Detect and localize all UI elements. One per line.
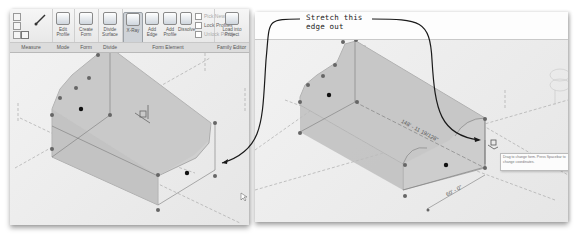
edit-profile-icon — [56, 12, 70, 25]
ribbon-group-divide: Divide Surface Divide — [98, 9, 123, 52]
group-label-form: Form — [74, 42, 98, 52]
measure-icon — [34, 12, 46, 26]
add-profile-icon — [163, 12, 177, 25]
group-label-family-editor: Family Editor — [214, 42, 249, 52]
load-into-project-button[interactable]: Load into Project — [220, 12, 244, 42]
add-edge-label: Add Edge — [147, 27, 158, 37]
modify-icon[interactable] — [13, 13, 21, 21]
add-edge-button[interactable]: Add Edge — [143, 12, 161, 42]
group-label-divide: Divide — [98, 42, 122, 52]
add-profile-button[interactable]: Add Profile — [161, 12, 179, 42]
dissolve-icon — [180, 12, 192, 25]
load-into-project-label: Load into Project — [223, 27, 242, 37]
drawing-viewport-before[interactable] — [10, 53, 249, 225]
divide-surface-label: Divide Surface — [102, 27, 118, 37]
ribbon-group-mode: Edit Profile Mode — [52, 9, 75, 52]
group-label-form-element: Form Element — [122, 42, 214, 52]
pick-new-host-icon — [195, 13, 202, 20]
ribbon-toolbar: Measure Edit Profile Mode Create Form Fo… — [10, 9, 249, 53]
x-ray-button[interactable]: X-Ray — [123, 12, 143, 44]
create-form-button[interactable]: Create Form — [77, 12, 95, 42]
x-ray-icon — [126, 13, 140, 26]
edit-profile-label: Edit Profile — [56, 27, 69, 37]
add-profile-label: Add Profile — [163, 27, 176, 37]
ribbon-group-form: Create Form Form — [74, 9, 99, 52]
paste-icon[interactable] — [13, 31, 21, 39]
left-screenshot-panel: Measure Edit Profile Mode Create Form Fo… — [10, 9, 249, 225]
ribbon-group-measure: Measure — [10, 9, 53, 52]
sofa-form-model-before — [10, 53, 249, 225]
delete-icon[interactable] — [21, 31, 29, 39]
dissolve-button[interactable]: Dissolve — [178, 12, 194, 42]
right-screenshot-panel: 148' - 11 19/128" 60' - 0" Drag to chang… — [255, 12, 568, 222]
divide-surface-button[interactable]: Divide Surface — [101, 12, 119, 42]
ribbon-group-form-element: X-Ray Add Edge Add Profile Dissolve Pick… — [122, 9, 215, 52]
group-label-measure: Measure — [10, 42, 52, 52]
drawing-viewport-after[interactable]: 148' - 11 19/128" 60' - 0" Drag to chang… — [255, 39, 568, 222]
create-form-label: Create Form — [79, 27, 93, 37]
divide-surface-icon — [103, 12, 117, 25]
mouse-cursor-icon — [241, 193, 247, 201]
measure-button[interactable] — [30, 12, 50, 42]
group-label-mode: Mode — [52, 42, 74, 52]
dissolve-label: Dissolve — [178, 27, 195, 32]
x-ray-label: X-Ray — [127, 28, 140, 33]
unlock-icon — [195, 31, 202, 38]
create-form-icon — [79, 12, 93, 25]
edit-profile-button[interactable]: Edit Profile — [54, 12, 72, 42]
lock-icon — [195, 22, 202, 29]
add-edge-icon — [145, 12, 159, 25]
ribbon-group-family-editor: Load into Project Family Editor — [214, 9, 249, 52]
drag-tooltip: Drag to change form. Press Spacebar to c… — [500, 153, 568, 171]
drag-gizmo-icon — [488, 140, 498, 149]
callout-label: Stretch this edge out — [306, 13, 386, 31]
load-into-project-icon — [225, 12, 239, 25]
properties-icon[interactable] — [13, 22, 21, 30]
background-fixture-icon — [550, 69, 568, 105]
sofa-form-model-stretched — [255, 40, 568, 222]
